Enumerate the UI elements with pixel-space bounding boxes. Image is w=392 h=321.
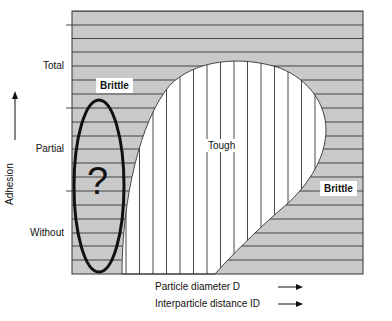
diagram-canvas: [0, 0, 392, 321]
x-axis-label-particle-diameter: Particle diameter D: [155, 281, 240, 292]
unknown-question-mark: ?: [87, 160, 108, 203]
y-axis-label: Adhesion: [4, 163, 15, 205]
y-tick-partial: Partial: [4, 143, 64, 154]
particle-diameter-arrow-icon: [278, 284, 303, 290]
y-tick-total: Total: [4, 60, 64, 71]
region-label-tough: Tough: [206, 139, 237, 152]
region-label-brittle-left: Brittle: [96, 78, 133, 93]
interparticle-distance-arrow-icon: [278, 301, 303, 307]
adhesion-arrow-icon: [12, 91, 18, 140]
region-label-brittle-right: Brittle: [320, 181, 357, 196]
x-axis-label-interparticle-distance: Interparticle distance ID: [155, 298, 260, 309]
y-tick-without: Without: [4, 227, 64, 238]
